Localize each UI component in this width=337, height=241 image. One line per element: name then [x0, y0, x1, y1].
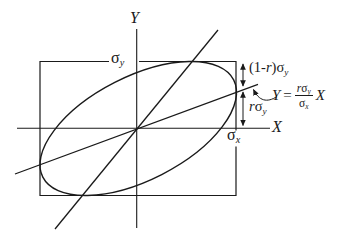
y-axis-label: Y — [130, 10, 139, 26]
r-sigma-y-label: rσy — [249, 99, 267, 114]
equation-rhs: X — [316, 88, 325, 103]
equation-denominator: σx — [299, 96, 308, 109]
sigma-y-label: σy — [111, 50, 124, 66]
x-axis-label: X — [272, 119, 282, 135]
regression-ellipse-figure: Y X σy σx (1-r)σy rσy Y = rσy σx X — [0, 0, 337, 241]
one-minus-r-sigma-y-label: (1-r)σy — [249, 60, 288, 75]
sigma-x-label: σx — [227, 127, 240, 143]
diagram-canvas — [0, 0, 337, 241]
equation-lhs: Y — [272, 88, 280, 103]
equation-equals: = — [283, 88, 291, 103]
equation-numerator: rσy — [295, 82, 313, 96]
equation-fraction: rσy σx — [295, 82, 313, 109]
regression-equation: Y = rσy σx X — [272, 82, 325, 109]
